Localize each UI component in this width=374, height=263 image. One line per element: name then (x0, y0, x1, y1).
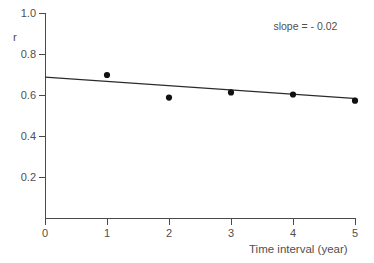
chart-background (0, 0, 374, 263)
y-tick-label-0.6: 0.6 (21, 89, 36, 101)
data-point (104, 72, 110, 78)
data-point (352, 98, 358, 104)
x-tick-label-5: 5 (352, 227, 358, 239)
x-tick-label-0: 0 (42, 227, 48, 239)
x-axis-title: Time interval (year) (249, 243, 348, 255)
x-tick-label-4: 4 (290, 227, 296, 239)
regression-scatter-chart: 1.0 0.8 0.6 0.4 0.2 r 0 1 2 3 4 5 Time i… (0, 0, 374, 263)
y-tick-label-0.8: 0.8 (21, 48, 36, 60)
data-point (166, 94, 172, 100)
x-tick-label-2: 2 (166, 227, 172, 239)
y-tick-label-0.2: 0.2 (21, 171, 36, 183)
data-point (290, 91, 296, 97)
slope-annotation: slope = - 0.02 (273, 20, 337, 32)
y-tick-label-0.4: 0.4 (21, 130, 36, 142)
x-tick-label-1: 1 (104, 227, 110, 239)
x-tick-label-3: 3 (228, 227, 234, 239)
y-axis-title: r (13, 31, 17, 43)
data-point (228, 89, 234, 95)
y-tick-label-1.0: 1.0 (21, 7, 36, 19)
